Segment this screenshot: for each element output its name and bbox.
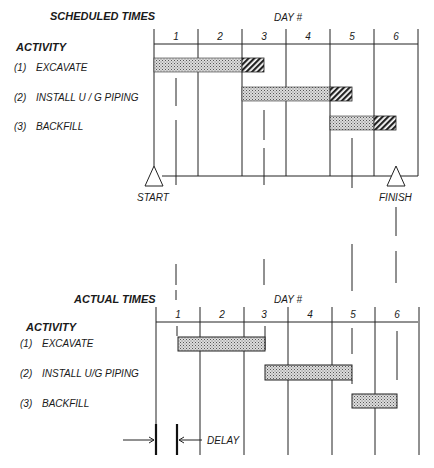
scheduled-row-num: (1) <box>14 62 26 73</box>
actual-row-name: EXCAVATE <box>42 338 94 349</box>
delay-label: DELAY <box>207 435 240 446</box>
actual-row-num: (3) <box>20 398 32 409</box>
gantt-comparison-chart: SCHEDULED TIMES DAY # ACTIVITY 1 2 3 4 5… <box>0 0 434 468</box>
scheduled-chart: SCHEDULED TIMES DAY # ACTIVITY 1 2 3 4 5… <box>14 10 418 203</box>
float-hatch <box>330 87 352 101</box>
scheduled-grid <box>154 29 418 188</box>
actual-activity-label: ACTIVITY <box>25 321 78 333</box>
day-header: 2 <box>216 31 223 42</box>
scheduled-row-name: EXCAVATE <box>36 62 88 73</box>
actual-row-num: (2) <box>20 368 32 379</box>
actual-bar-excavate <box>178 337 265 351</box>
actual-chart: ACTUAL TIMES DAY # ACTIVITY 1 2 3 4 5 6 <box>20 293 419 455</box>
actual-day-label: DAY # <box>274 294 302 305</box>
actual-bar-backfill <box>352 394 397 408</box>
day-header: 4 <box>305 31 311 42</box>
scheduled-activity-label: ACTIVITY <box>15 41 68 53</box>
scheduled-bar-excavate <box>154 58 264 72</box>
actual-row-name: INSTALL U/G PIPING <box>42 368 139 379</box>
scheduled-bar-install-piping <box>242 87 352 101</box>
scheduled-row-name: INSTALL U / G PIPING <box>36 92 139 103</box>
actual-row-name: BACKFILL <box>42 398 89 409</box>
finish-label: FINISH <box>379 192 413 203</box>
day-header: 2 <box>218 309 225 320</box>
float-hatch <box>374 116 396 130</box>
scheduled-row-name: BACKFILL <box>36 121 83 132</box>
day-header: 6 <box>393 31 399 42</box>
day-header: 1 <box>173 31 179 42</box>
scheduled-day-label: DAY # <box>274 12 302 23</box>
day-header: 5 <box>349 31 355 42</box>
scheduled-row-num: (3) <box>14 121 26 132</box>
day-header: 3 <box>261 31 267 42</box>
scheduled-row-num: (2) <box>14 92 26 103</box>
actual-bar-install-piping <box>265 365 352 380</box>
start-triangle-icon <box>145 166 163 186</box>
scheduled-title: SCHEDULED TIMES <box>50 10 156 22</box>
day-header: 5 <box>350 309 356 320</box>
actual-grid <box>156 307 419 455</box>
day-header: 1 <box>175 309 181 320</box>
start-label: START <box>137 192 170 203</box>
actual-row-num: (1) <box>20 338 32 349</box>
actual-title: ACTUAL TIMES <box>73 293 156 305</box>
day-header: 3 <box>261 309 267 320</box>
day-header: 4 <box>307 309 313 320</box>
connector-lines <box>176 207 396 300</box>
day-header: 6 <box>394 309 400 320</box>
float-hatch <box>242 58 264 72</box>
delay-annotation: DELAY <box>123 424 240 455</box>
scheduled-bar-backfill <box>330 116 396 130</box>
